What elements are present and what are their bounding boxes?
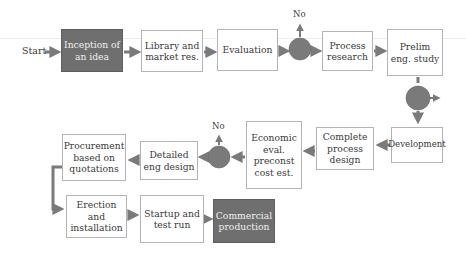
node-commercial-production: Commercialproduction [213, 199, 275, 243]
node-label-line: Detailed [149, 149, 188, 160]
node-label-line: based on [73, 152, 115, 163]
node-inception-of-an-idea: Inception ofan idea [61, 29, 123, 72]
start-label: Start [22, 45, 46, 56]
node-label-line: eval. [263, 144, 285, 155]
decision3-no-label: No [212, 121, 225, 131]
node-label-line: preconst [254, 155, 295, 166]
node-label-line: quotations [69, 163, 118, 174]
node-label-line: production [219, 221, 270, 232]
node-label-line: eng design [144, 161, 195, 172]
node-label-line: test run [154, 219, 191, 230]
node-label-line: Prelim [400, 41, 431, 52]
node-startup-and-test-run: Startup andtest run [140, 195, 204, 243]
node-detailed-eng-design: Detailedeng design [140, 141, 198, 180]
node-library-and-market-research: Library andmarket res. [141, 30, 203, 72]
node-erection-and-installation: Erection andinstallation [66, 195, 127, 238]
node-label-line: Development [388, 139, 446, 149]
node-evaluation: Evaluation [217, 29, 278, 71]
node-label-line: eng. study [391, 53, 439, 64]
node-label-line: Erection and [77, 199, 117, 222]
decision-circle-2 [406, 86, 430, 110]
node-development: Development [391, 127, 443, 163]
node-economic-eval-preconst-cost-est: Economiceval.preconstcost est. [246, 121, 302, 189]
node-label-line: Startup and [144, 208, 200, 219]
node-prelim-eng-study: Prelimeng. study [387, 29, 443, 76]
decision-circle-1 [289, 38, 311, 60]
node-label-line: Commercial [216, 210, 272, 221]
node-label-line: Evaluation [223, 44, 273, 55]
node-label-line: Economic [251, 132, 297, 143]
node-label-line: installation [70, 222, 122, 233]
node-label-line: cost est. [255, 167, 294, 178]
node-label-line: Complete [323, 131, 368, 142]
node-label-line: an idea [75, 51, 109, 62]
node-label-line: design [330, 154, 361, 165]
node-procurement-based-on-quotations: Procurementbased onquotations [62, 134, 126, 181]
node-process-research: Processresearch [322, 31, 373, 71]
node-label-line: market res. [145, 51, 199, 62]
decision1-no-label: No [293, 9, 306, 19]
node-label-line: Inception of [64, 39, 120, 50]
decision-circle-3 [208, 146, 230, 168]
node-label-line: Process [329, 40, 365, 51]
node-label-line: research [327, 51, 368, 62]
node-label-line: process [327, 143, 363, 154]
node-label-line: Library and [145, 40, 200, 51]
node-complete-process-design: Completeprocessdesign [316, 127, 374, 170]
node-label-line: Procurement [64, 140, 125, 151]
arrow-procurement-to-erection [53, 167, 62, 209]
